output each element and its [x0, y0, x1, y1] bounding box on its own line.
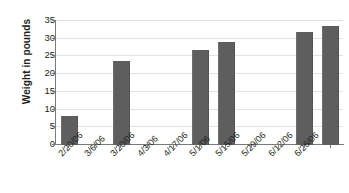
- bar-chart: Weight in pounds 05101520253035 2/20/063…: [0, 0, 349, 193]
- x-tick-mark: [225, 145, 226, 148]
- x-tick-mark: [120, 145, 121, 148]
- y-tick-mark: [52, 109, 55, 110]
- y-axis-title: Weight in pounds: [21, 0, 32, 132]
- y-tick-mark: [52, 20, 55, 21]
- y-tick-mark: [52, 144, 55, 145]
- x-tick-mark: [94, 145, 95, 148]
- y-tick-mark: [52, 91, 55, 92]
- x-tick-mark: [304, 145, 305, 148]
- x-tick-mark: [199, 145, 200, 148]
- bar[interactable]: [192, 50, 209, 145]
- x-tick-mark: [278, 145, 279, 148]
- y-tick-mark: [52, 55, 55, 56]
- x-tick-mark: [173, 145, 174, 148]
- bars-group: [55, 20, 344, 145]
- x-tick-mark: [251, 145, 252, 148]
- x-tick-mark: [68, 145, 69, 148]
- bar[interactable]: [322, 26, 339, 145]
- x-tick-mark: [330, 145, 331, 148]
- y-tick-mark: [52, 73, 55, 74]
- y-tick-mark: [52, 126, 55, 127]
- bar[interactable]: [296, 32, 313, 145]
- y-tick-mark: [52, 38, 55, 39]
- bar[interactable]: [218, 42, 235, 145]
- x-tick-mark: [147, 145, 148, 148]
